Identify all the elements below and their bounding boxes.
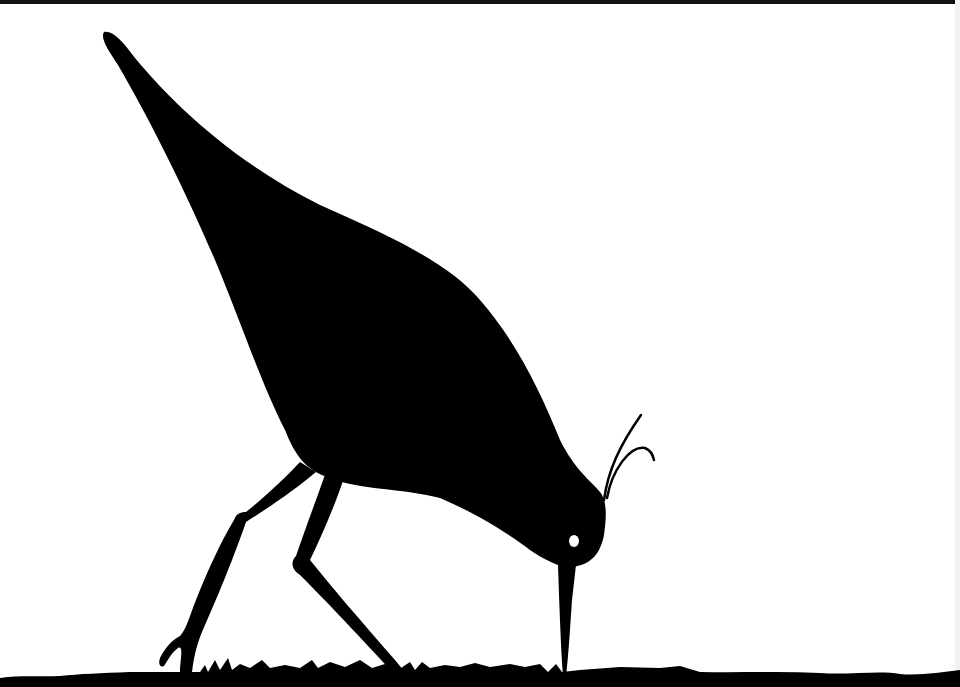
bird-beak-icon — [558, 565, 576, 676]
bird-eye-icon — [569, 535, 579, 547]
right-edge — [955, 0, 960, 687]
bird-leg-back-icon — [159, 462, 316, 672]
bird-leg-front-icon — [293, 472, 408, 676]
bird-silhouette-svg — [0, 0, 960, 687]
silhouette-artwork: Black paper-cut silhouette of a wading b… — [0, 0, 960, 687]
plume-2-icon — [607, 448, 654, 498]
bird-body-icon — [103, 32, 606, 567]
ground-grass-icon — [0, 658, 960, 687]
top-border — [0, 0, 960, 4]
